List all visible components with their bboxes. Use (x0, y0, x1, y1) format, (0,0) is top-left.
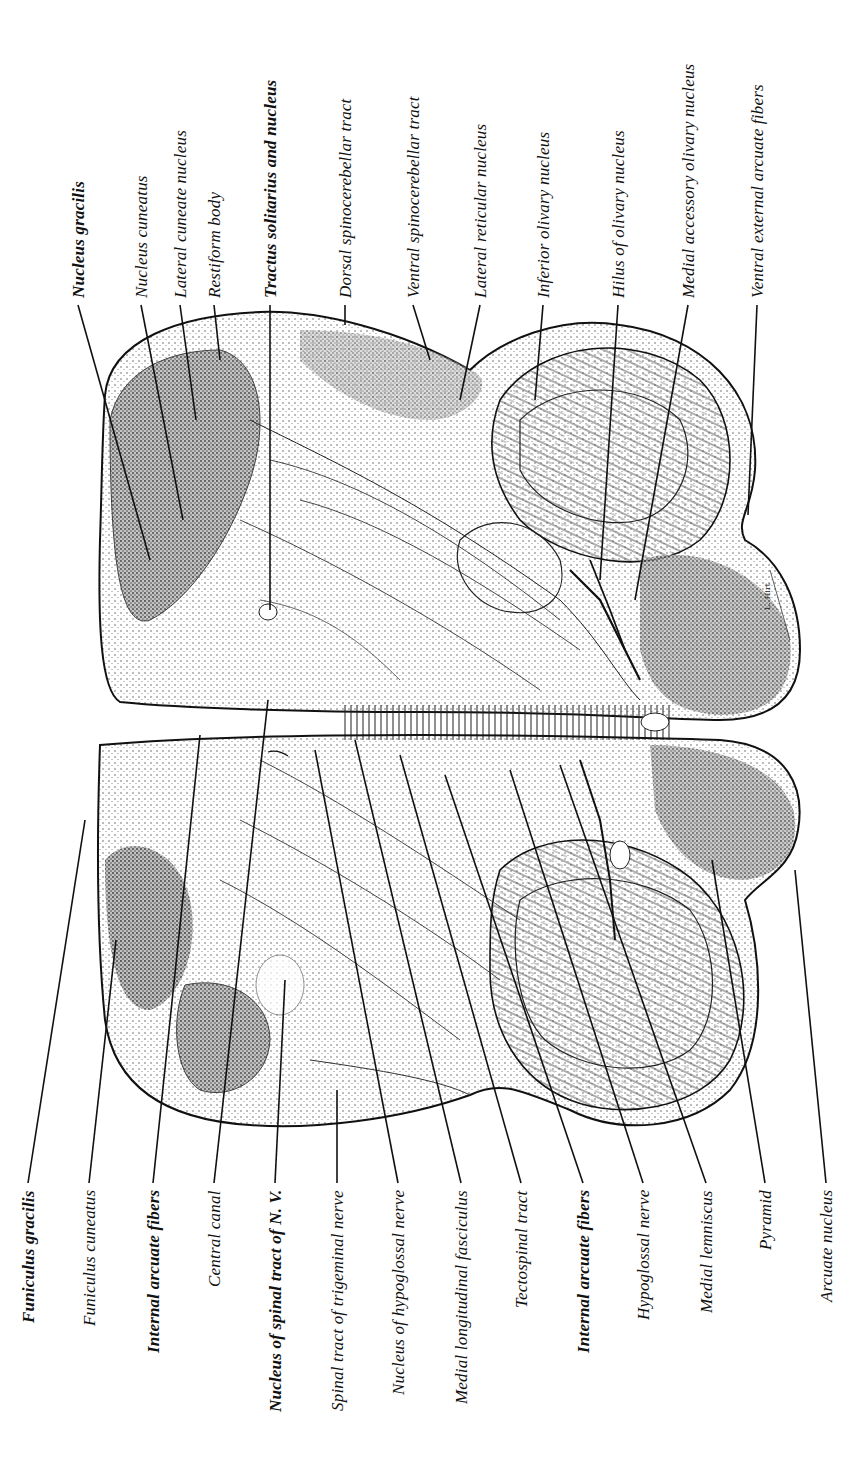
artist-signature: L. Hirt (763, 582, 772, 610)
label-ventral-external-arcuate-fibers: Ventral external arcuate fibers (748, 84, 768, 298)
lower-half (98, 735, 800, 1126)
label-pyramid: Pyramid (756, 1190, 776, 1250)
label-hypoglossal-nerve: Hypoglossal nerve (634, 1190, 654, 1320)
label-nucleus-of-hypoglossal-nerve: Nucleus of hypoglossal nerve (389, 1190, 409, 1395)
label-medial-lemniscus: Medial lemniscus (697, 1190, 717, 1313)
label-tectospinal-tract: Tectospinal tract (512, 1190, 532, 1308)
label-tractus-solitarius-and-nucleus: Tractus solitarius and nucleus (261, 80, 281, 298)
label-restiform-body: Restiform body (205, 192, 225, 298)
label-central-canal: Central canal (205, 1190, 225, 1287)
label-spinal-tract-of-trigeminal-nerve: Spinal tract of trigeminal nerve (328, 1190, 348, 1411)
upper-half (99, 312, 800, 720)
label-dorsal-spinocerebellar-tract: Dorsal spinocerebellar tract (336, 98, 356, 298)
label-medial-accessory-olivary-nucleus: Medial accessory olivary nucleus (679, 64, 699, 298)
label-nucleus-gracilis: Nucleus gracilis (69, 181, 89, 298)
medulla-diagram: L. Hirt Nucleus gracilisNucleus cuneatus… (0, 0, 857, 1481)
label-ventral-spinocerebellar-tract: Ventral spinocerebellar tract (404, 96, 424, 298)
label-internal-arcuate-fibers: Internal arcuate fibers (144, 1190, 164, 1353)
label-medial-longitudinal-fasciculus: Medial longitudinal fasciculus (452, 1190, 472, 1404)
label-lateral-reticular-nucleus: Lateral reticular nucleus (471, 124, 491, 298)
label-nucleus-cuneatus: Nucleus cuneatus (132, 175, 152, 298)
label-nucleus-of-spinal-tract-of-n-v: Nucleus of spinal tract of N. V. (266, 1190, 286, 1412)
label-internal-arcuate-fibers: Internal arcuate fibers (574, 1190, 594, 1353)
label-funiculus-cuneatus: Funiculus cuneatus (80, 1190, 100, 1326)
label-inferior-olivary-nucleus: Inferior olivary nucleus (534, 132, 554, 298)
label-lateral-cuneate-nucleus: Lateral cuneate nucleus (171, 130, 191, 298)
label-funiculus-gracilis: Funiculus gracilis (19, 1190, 39, 1323)
medulla-section-illustration: L. Hirt (0, 0, 857, 1481)
label-arcuate-nucleus: Arcuate nucleus (817, 1190, 837, 1302)
label-hilus-of-olivary-nucleus: Hilus of olivary nucleus (609, 130, 629, 298)
